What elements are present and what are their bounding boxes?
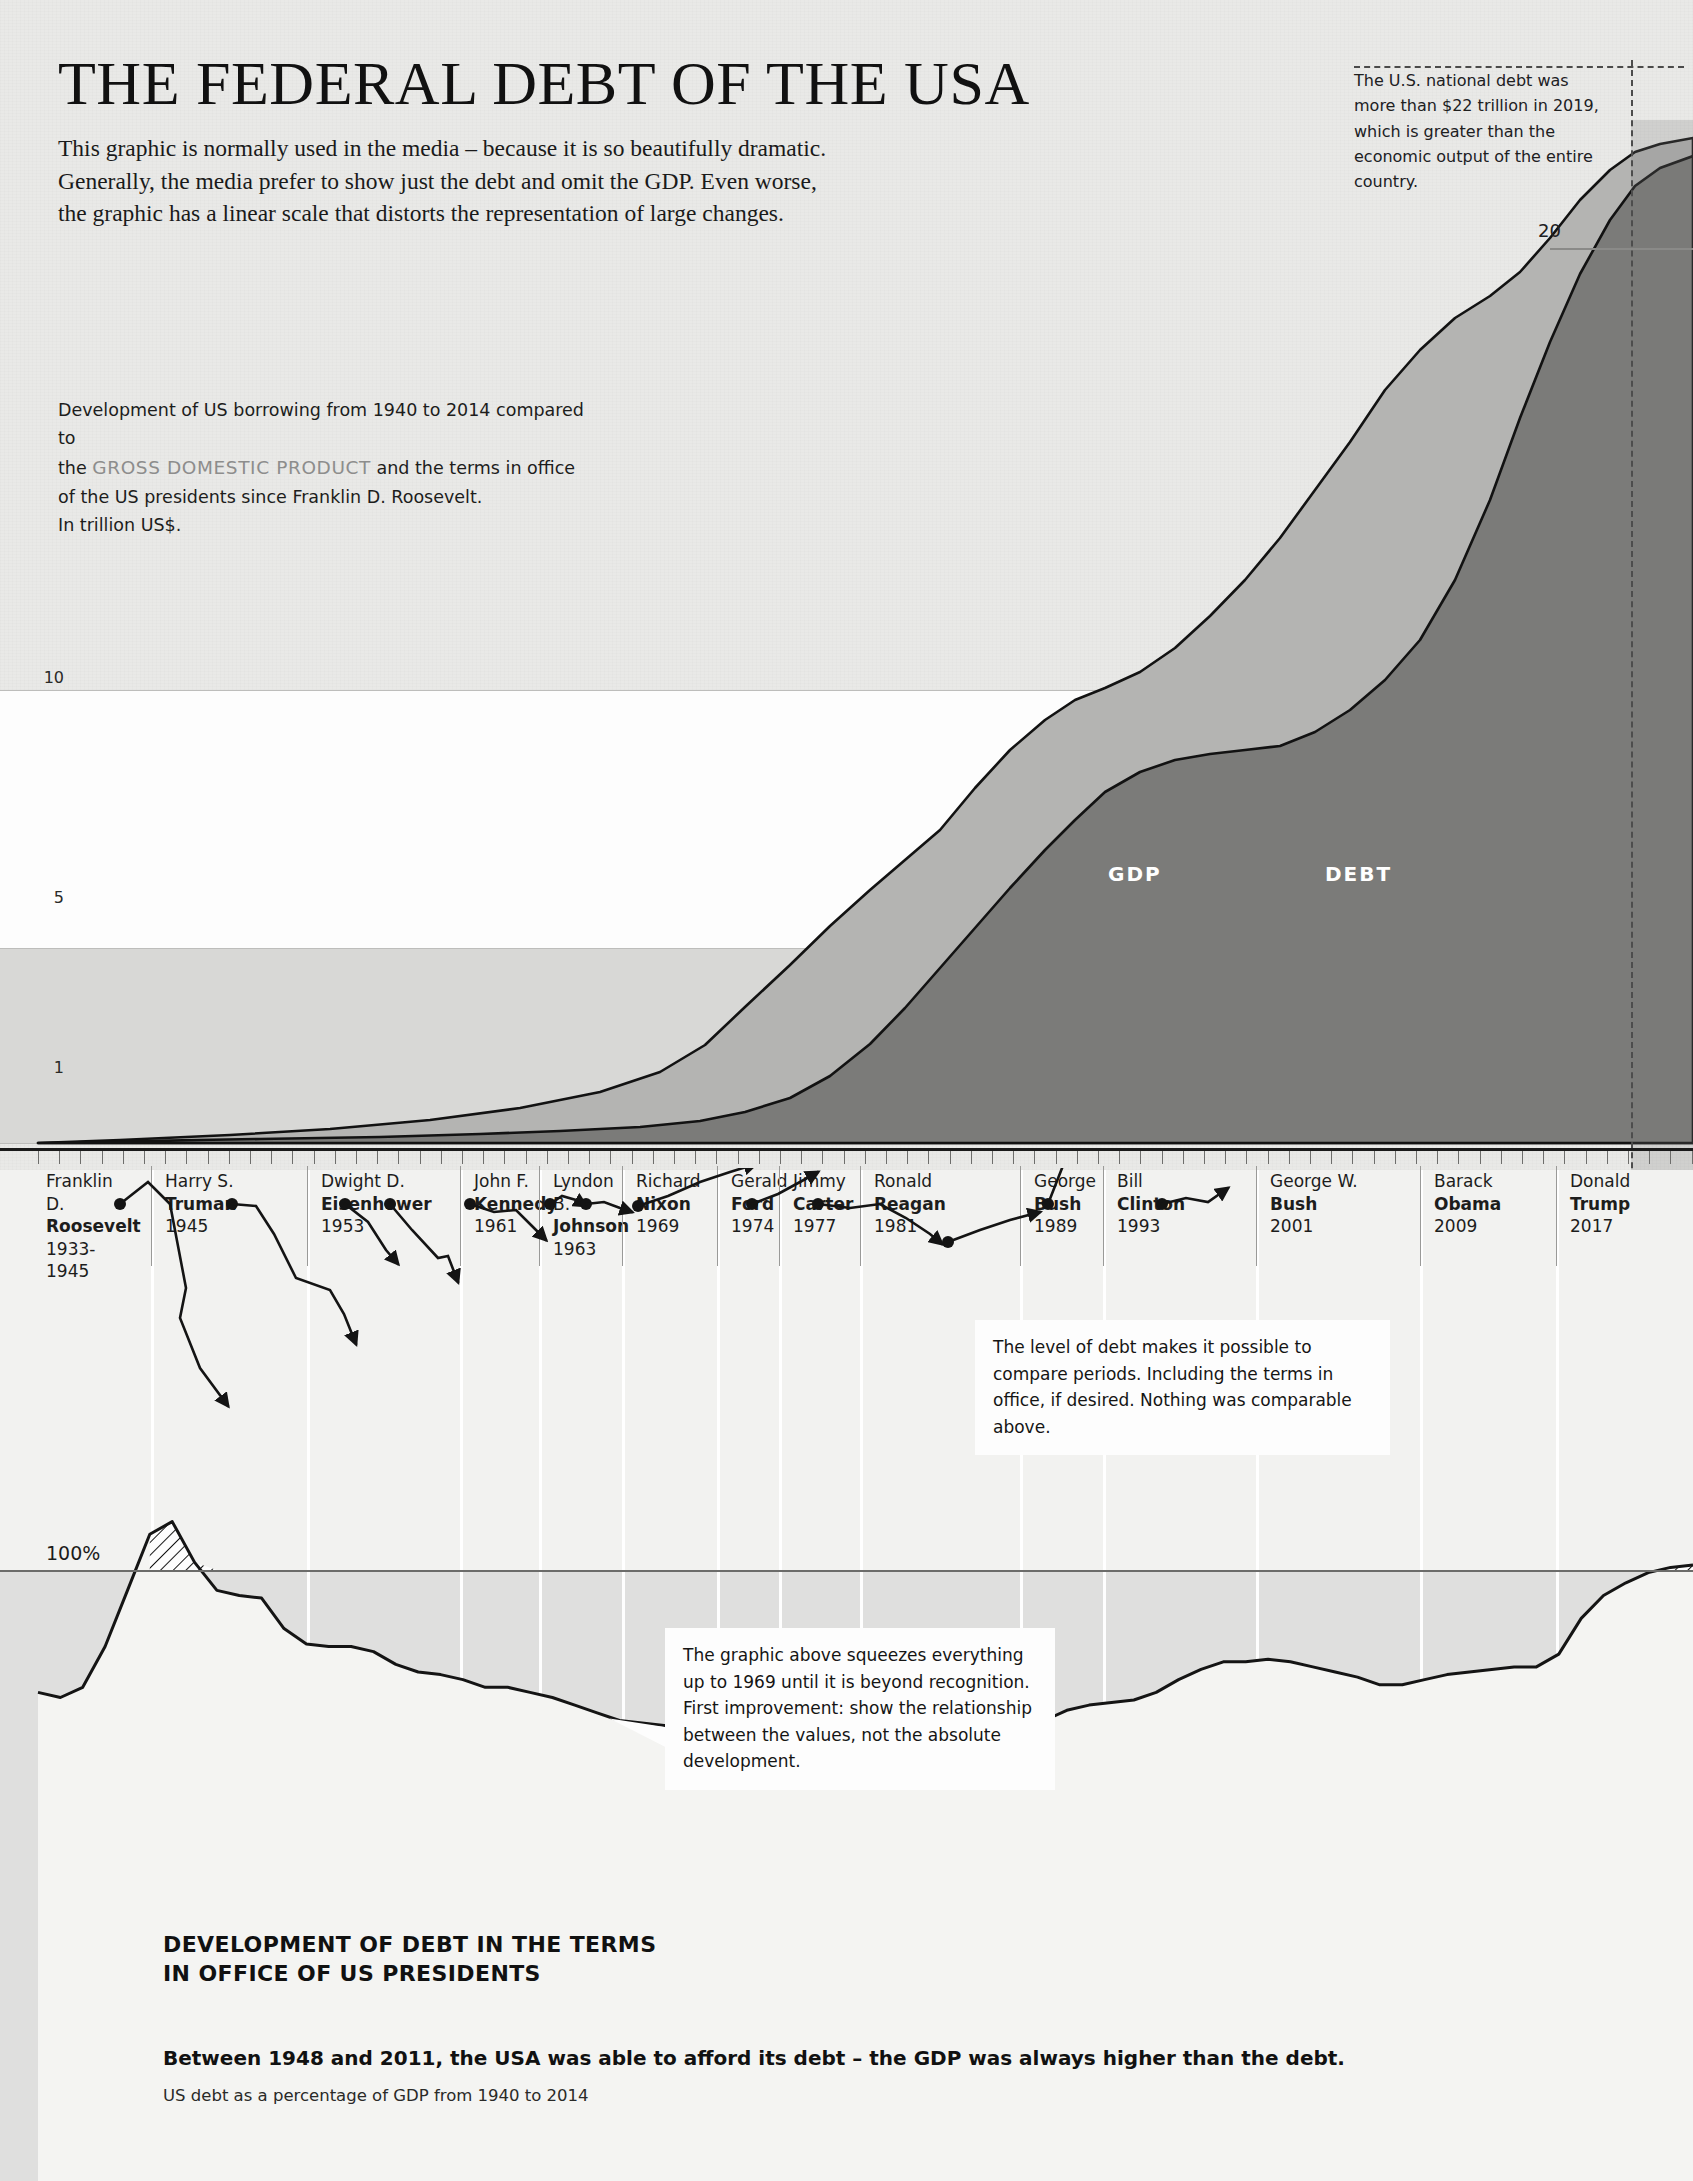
baseline-100-label: 100% bbox=[46, 1542, 100, 1564]
timeline-tick bbox=[653, 1151, 654, 1164]
timeline-tick bbox=[1352, 1151, 1353, 1164]
timeline-tick bbox=[1607, 1151, 1608, 1164]
timeline-tick bbox=[1501, 1151, 1502, 1164]
top-note-text: The U.S. national debt was more than $22… bbox=[1354, 68, 1604, 194]
term-trend-trump bbox=[1162, 1188, 1228, 1204]
gridline-20 bbox=[1550, 248, 1693, 250]
timeline-tick bbox=[992, 1151, 993, 1164]
timeline-tick bbox=[822, 1151, 823, 1164]
y-axis-label-10: 10 bbox=[24, 668, 64, 687]
callout-squeeze: The graphic above squeezes everything up… bbox=[665, 1628, 1055, 1790]
timeline-tick bbox=[928, 1151, 929, 1164]
timeline-tick bbox=[1204, 1151, 1205, 1164]
timeline-tick bbox=[80, 1151, 81, 1164]
timeline-tick bbox=[1374, 1151, 1375, 1164]
timeline-tick bbox=[462, 1151, 463, 1164]
term-trend-arrows bbox=[0, 1168, 1693, 1508]
timeline-tick bbox=[1331, 1151, 1332, 1164]
subtitle-line-2: Generally, the media prefer to show just… bbox=[58, 165, 1288, 197]
timeline-tick bbox=[123, 1151, 124, 1164]
timeline-tick bbox=[1162, 1151, 1163, 1164]
timeline-tick bbox=[1437, 1151, 1438, 1164]
timeline-tick bbox=[759, 1151, 760, 1164]
timeline-tick bbox=[886, 1151, 887, 1164]
subtitle-line-1: This graphic is normally used in the med… bbox=[58, 132, 1288, 164]
timeline-tick bbox=[1119, 1151, 1120, 1164]
timeline-tick bbox=[1183, 1151, 1184, 1164]
timeline-tick bbox=[1543, 1151, 1544, 1164]
timeline-tick bbox=[335, 1151, 336, 1164]
term-trend-truman bbox=[120, 1182, 228, 1406]
y-axis-label-1: 1 bbox=[24, 1058, 64, 1077]
subtitle-line-3: the graphic has a linear scale that dist… bbox=[58, 197, 1288, 229]
timeline-tick bbox=[1289, 1151, 1290, 1164]
caption-line-3: of the US presidents since Franklin D. R… bbox=[58, 483, 588, 511]
timeline-tick bbox=[186, 1151, 187, 1164]
timeline-tick bbox=[483, 1151, 484, 1164]
caption-line-2-post: and the terms in office bbox=[371, 458, 575, 478]
timeline-tick bbox=[547, 1151, 548, 1164]
timeline-axis bbox=[0, 1148, 1693, 1151]
timeline-tick bbox=[801, 1151, 802, 1164]
timeline-tick bbox=[1480, 1151, 1481, 1164]
page-subtitle: This graphic is normally used in the med… bbox=[58, 132, 1288, 229]
timeline-tick bbox=[610, 1151, 611, 1164]
debt-ratio-area bbox=[38, 1522, 1693, 2181]
timeline-tick bbox=[1564, 1151, 1565, 1164]
series-label-debt: DEBT bbox=[1325, 862, 1392, 886]
timeline-tick bbox=[314, 1151, 315, 1164]
timeline-tick bbox=[780, 1151, 781, 1164]
term-trend-carter bbox=[586, 1202, 632, 1212]
term-trend-obama bbox=[1048, 1168, 1100, 1204]
timeline-tick bbox=[1310, 1151, 1311, 1164]
series-label-gdp: GDP bbox=[1108, 862, 1162, 886]
term-trend-clinton bbox=[818, 1204, 942, 1244]
timeline-tick bbox=[398, 1151, 399, 1164]
above-100-hatch bbox=[150, 1522, 1693, 1570]
timeline-tick bbox=[865, 1151, 866, 1164]
timeline-tick bbox=[1013, 1151, 1014, 1164]
timeline-tick bbox=[971, 1151, 972, 1164]
page-title: THE FEDERAL DEBT OF THE USA bbox=[58, 52, 1288, 115]
timeline-tick bbox=[1586, 1151, 1587, 1164]
lower-chart-heading-line-2: IN OFFICE OF US PRESIDENTS bbox=[163, 1959, 656, 1988]
infographic-page: 10 5 1 20 GDP DEBT Prognosis THE FEDERAL… bbox=[0, 0, 1693, 2181]
term-trend-nixon bbox=[470, 1204, 546, 1240]
term-trend-eisenhower bbox=[232, 1204, 356, 1344]
term-trend-gwbush bbox=[948, 1212, 1040, 1242]
timeline-tick bbox=[950, 1151, 951, 1164]
caption-gdp-emphasis: GROSS DOMESTIC PRODUCT bbox=[92, 457, 371, 478]
timeline-tick bbox=[250, 1151, 251, 1164]
timeline-tick bbox=[441, 1151, 442, 1164]
timeline-tick bbox=[59, 1151, 60, 1164]
timeline-tick bbox=[165, 1151, 166, 1164]
timeline-tick bbox=[292, 1151, 293, 1164]
timeline-tick bbox=[1268, 1151, 1269, 1164]
timeline-tick bbox=[1098, 1151, 1099, 1164]
y-axis-label-20: 20 bbox=[1538, 220, 1561, 241]
timeline-tick bbox=[377, 1151, 378, 1164]
timeline-tick bbox=[589, 1151, 590, 1164]
timeline-tick bbox=[844, 1151, 845, 1164]
timeline-tick bbox=[356, 1151, 357, 1164]
timeline-tick bbox=[738, 1151, 739, 1164]
timeline-tick bbox=[1522, 1151, 1523, 1164]
baseline-100-percent bbox=[0, 1570, 1693, 1572]
timeline-tick bbox=[1416, 1151, 1417, 1164]
header: THE FEDERAL DEBT OF THE USA This graphic… bbox=[58, 52, 1288, 230]
timeline-tick bbox=[1246, 1151, 1247, 1164]
timeline-tick bbox=[1140, 1151, 1141, 1164]
timeline-tick bbox=[504, 1151, 505, 1164]
timeline-tick bbox=[271, 1151, 272, 1164]
footer-lead: Between 1948 and 2011, the USA was able … bbox=[163, 2046, 1345, 2070]
timeline-tick bbox=[420, 1151, 421, 1164]
timeline-tick bbox=[1628, 1151, 1629, 1164]
caption-line-2-pre: the bbox=[58, 458, 92, 478]
timeline-tick bbox=[907, 1151, 908, 1164]
timeline-tick bbox=[526, 1151, 527, 1164]
lower-chart-heading-line-1: DEVELOPMENT OF DEBT IN THE TERMS bbox=[163, 1930, 656, 1959]
term-trend-kennedy bbox=[345, 1204, 398, 1264]
timeline-tick bbox=[144, 1151, 145, 1164]
timeline-tick bbox=[1395, 1151, 1396, 1164]
timeline-tick bbox=[1458, 1151, 1459, 1164]
